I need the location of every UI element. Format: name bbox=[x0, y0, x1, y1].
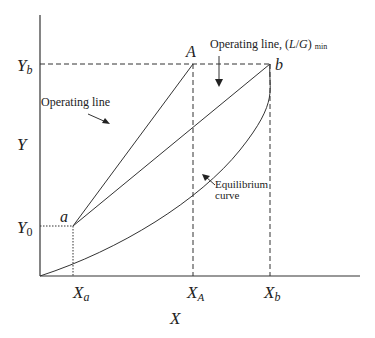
x-axis-label: X bbox=[169, 309, 181, 328]
y-tick-yb: Yb bbox=[17, 56, 32, 77]
absorption-diagram: a A b Yb Y0 Xa XA Xb Y X Operating line … bbox=[0, 0, 375, 338]
operating-line-min-arrow-icon bbox=[215, 56, 223, 87]
point-A-label: A bbox=[185, 43, 196, 60]
operating-line-min bbox=[73, 64, 270, 226]
point-a-label: a bbox=[60, 208, 68, 225]
equilibrium-arrow-icon bbox=[202, 174, 215, 185]
point-b-label: b bbox=[275, 56, 283, 73]
y-tick-y0: Y0 bbox=[17, 218, 32, 239]
operating-line-arrow-icon bbox=[88, 114, 110, 124]
operating-line bbox=[73, 64, 193, 226]
y-axis-label: Y bbox=[17, 135, 28, 154]
operating-line-min-annotation: Operating line, (L/G)min bbox=[210, 37, 327, 51]
equilibrium-annotation-line2: curve bbox=[215, 189, 240, 201]
x-tick-xb: Xb bbox=[263, 283, 280, 304]
x-tick-xA: XA bbox=[186, 283, 204, 303]
x-tick-xa: Xa bbox=[72, 283, 89, 304]
operating-line-annotation: Operating line bbox=[41, 95, 110, 109]
